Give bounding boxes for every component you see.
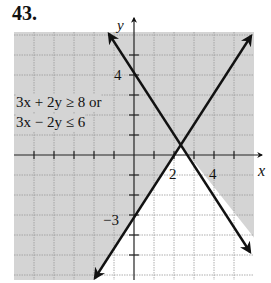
inequality-graph: y x 2 4 4 −3 — [0, 0, 271, 283]
y-axis-label: y — [115, 17, 124, 33]
inequality-label-2: 3x − 2y ≤ 6 — [16, 114, 85, 131]
inequality-label-1: 3x + 2y ≥ 8 or — [16, 94, 101, 111]
x-tick-label-2: 2 — [169, 166, 177, 182]
y-tick-label-neg3: −3 — [103, 212, 119, 228]
y-tick-label-4: 4 — [114, 67, 122, 83]
x-axis-label: x — [257, 162, 265, 179]
x-tick-label-4: 4 — [209, 166, 217, 182]
